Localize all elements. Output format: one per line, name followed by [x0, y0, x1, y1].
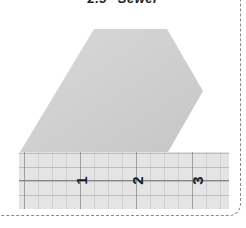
ruler: 1 2 3	[19, 152, 229, 209]
ruler-label-2: 2	[129, 174, 146, 188]
ruler-label-1: 1	[73, 174, 90, 188]
ruler-label-3: 3	[189, 174, 206, 188]
